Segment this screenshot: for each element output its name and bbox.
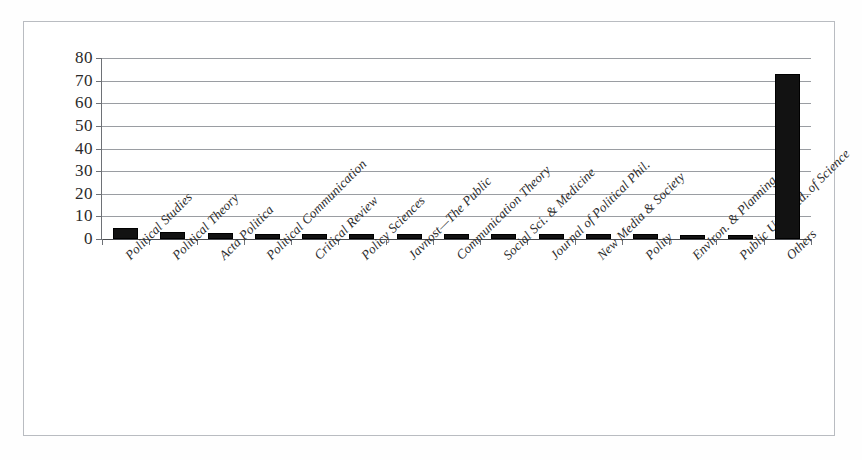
x-axis-category-label: Javnost—The Public: [405, 173, 495, 263]
y-axis-label: 50: [75, 116, 93, 136]
figure-frame: 01020304050607080Political StudiesPoliti…: [23, 21, 835, 436]
y-axis-tick: [96, 58, 102, 59]
y-axis-label: 20: [75, 184, 93, 204]
y-axis-label: 10: [75, 206, 93, 226]
y-axis-tick: [96, 81, 102, 82]
gridline: [102, 103, 811, 104]
bar-chart: 01020304050607080Political StudiesPoliti…: [24, 22, 836, 437]
y-axis-tick: [96, 103, 102, 104]
y-axis-tick: [96, 171, 102, 172]
figure-caption: [30, 450, 820, 460]
y-axis-label: 30: [75, 161, 93, 181]
bar: [775, 74, 800, 239]
y-axis-tick: [96, 216, 102, 217]
y-axis-label: 80: [75, 48, 93, 68]
gridline: [102, 171, 811, 172]
gridline: [102, 149, 811, 150]
gridline: [102, 126, 811, 127]
x-axis-category-label: Environ. & Planning: [689, 173, 780, 264]
y-axis-label: 60: [75, 93, 93, 113]
y-axis-tick: [96, 149, 102, 150]
figure-page: 01020304050607080Political StudiesPoliti…: [0, 0, 862, 460]
x-axis-tick: [102, 239, 103, 245]
y-axis-tick: [96, 194, 102, 195]
y-axis-label: 70: [75, 71, 93, 91]
plot-area: 01020304050607080Political StudiesPoliti…: [102, 58, 811, 239]
y-axis-tick: [96, 126, 102, 127]
gridline: [102, 81, 811, 82]
gridline: [102, 194, 811, 195]
y-axis-label: 40: [75, 139, 93, 159]
gridline: [102, 58, 811, 59]
y-axis-label: 0: [84, 229, 93, 249]
bar: [113, 228, 138, 239]
